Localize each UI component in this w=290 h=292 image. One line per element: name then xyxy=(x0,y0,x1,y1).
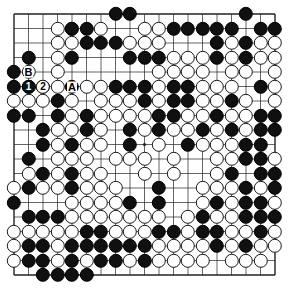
point-label-B: B xyxy=(24,67,34,78)
move-number-2: 2 xyxy=(40,82,46,92)
move-number-1: 1 xyxy=(26,82,32,92)
point-label-A: A xyxy=(67,81,77,92)
go-board-container: 12BA xyxy=(0,0,290,292)
goban[interactable]: 12BA xyxy=(0,0,290,292)
